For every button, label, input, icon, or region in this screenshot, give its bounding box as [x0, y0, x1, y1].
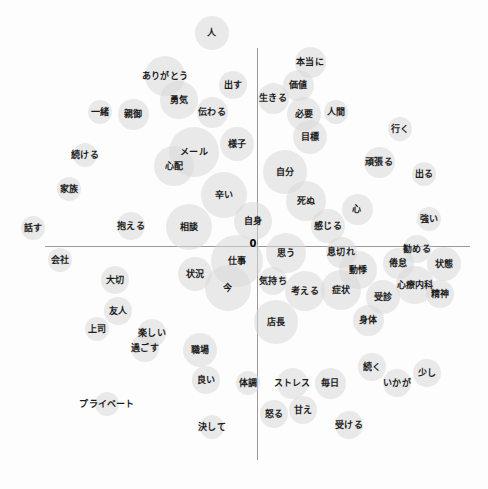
data-point-label: 目標 [301, 133, 319, 142]
data-point-label: 続ける [71, 151, 99, 160]
data-point-label: 楽しい [138, 329, 166, 338]
data-point-label: 倦怠 [389, 259, 407, 268]
data-point-label: 人間 [327, 108, 345, 117]
data-point-label: 毎日 [321, 379, 339, 388]
data-point-label: 状況 [186, 270, 204, 279]
data-point-label: 親御 [124, 110, 142, 119]
data-point-label: 身体 [359, 316, 377, 325]
data-point-label: いかが [383, 379, 411, 388]
data-point-label: 死ぬ [297, 197, 315, 206]
data-point-label: 精神 [431, 290, 449, 299]
data-point-label: 受ける [335, 421, 363, 430]
data-point-label: 相談 [180, 223, 198, 232]
plot-canvas: 人本当にありがとう出す価値生きる勇気伝わる必要人間一緒親御行く目標様子メール続け… [0, 0, 488, 489]
data-point-label: 価値 [289, 81, 307, 90]
data-point-label: 職場 [191, 346, 209, 355]
data-point-label: 今 [223, 284, 232, 293]
data-point-label: 話す [24, 224, 42, 233]
data-point-label: 少し [418, 369, 436, 378]
data-point-label: ありがとう [142, 72, 188, 81]
data-point-label: 仕事 [228, 257, 246, 266]
data-point-label: 強い [420, 215, 438, 224]
data-point-label: メール [180, 148, 208, 157]
data-point-label: 気持ち [259, 277, 287, 286]
data-point-label: 出る [415, 170, 433, 179]
data-point-label: 良い [197, 376, 215, 385]
data-point-label: 会社 [51, 256, 69, 265]
data-point-label: 甘え [294, 406, 312, 415]
origin-label: 0 [250, 239, 257, 249]
data-point-label: 思う [277, 249, 295, 258]
data-point-label: 感じる [314, 222, 342, 231]
data-point-label: 上司 [88, 325, 106, 334]
data-point-label: 受診 [374, 293, 392, 302]
data-point-label: 辛い [215, 191, 233, 200]
data-point-label: 自身 [244, 217, 262, 226]
data-point-label: 伝わる [198, 108, 226, 117]
data-point-label: 状態 [435, 260, 453, 269]
data-point-label: 出す [224, 81, 242, 90]
data-point-label: 必要 [295, 110, 313, 119]
vertical-axis [257, 48, 258, 460]
data-point-label: ストレス [274, 379, 311, 388]
data-point-label: 息切れ [327, 248, 355, 257]
data-point-label: 抱える [117, 222, 145, 231]
data-point-label: 続く [363, 363, 381, 372]
data-point-label: 本当に [296, 58, 324, 67]
data-point-label: 心療内科 [397, 281, 434, 290]
data-point-label: 自分 [276, 168, 294, 177]
data-point-label: 考える [291, 287, 319, 296]
word-scatter-plot: 人本当にありがとう出す価値生きる勇気伝わる必要人間一緒親御行く目標様子メール続け… [0, 0, 488, 489]
data-point-label: 大切 [106, 276, 124, 285]
data-point-label: 心配 [165, 162, 183, 171]
data-point-label: 友人 [109, 307, 127, 316]
data-point-label: 動悸 [349, 266, 367, 275]
data-point-label: 様子 [228, 140, 246, 149]
data-point-label: 家族 [60, 185, 78, 194]
data-point-label: 決して [198, 423, 226, 432]
data-point-label: 生きる [259, 94, 287, 103]
data-point-label: 怒る [265, 410, 283, 419]
data-point-label: プライベート [79, 400, 134, 409]
data-point-label: 勧める [403, 245, 431, 254]
data-point-label: 体調 [239, 379, 257, 388]
data-point-label: 店長 [267, 318, 285, 327]
data-point-label: 心 [352, 205, 361, 214]
data-point-label: 頑張る [365, 158, 393, 167]
data-point-label: 人 [207, 29, 216, 38]
data-point-label: 勇気 [170, 96, 188, 105]
data-point-label: 行く [391, 125, 409, 134]
data-point-label: 症状 [332, 286, 350, 295]
data-point-label: 一緒 [91, 108, 109, 117]
data-point-label: 過ごす [131, 344, 159, 353]
